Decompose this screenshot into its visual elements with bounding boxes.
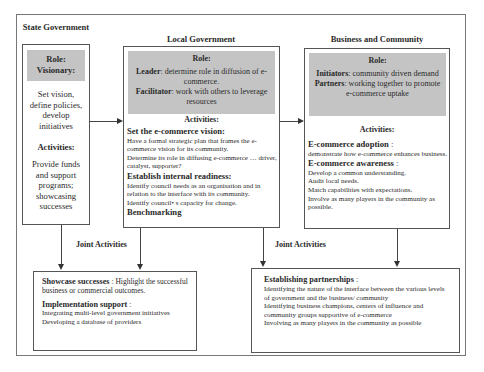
business-role-heading: Role: — [312, 56, 443, 66]
arrow-local-to-right-joint — [263, 228, 264, 262]
business-role-band: Role: Initiators: community driven deman… — [309, 53, 446, 116]
business-community-title: Business and Community — [304, 34, 450, 45]
business-section-heading: E-commerce awareness : — [308, 158, 448, 169]
arrow-state-to-local — [90, 121, 118, 122]
local-government-box: Role: Leader: determine role in diffusio… — [123, 46, 280, 228]
arrow-local-to-business — [280, 121, 299, 122]
local-section-line: Have a formal strategic plan that frames… — [127, 137, 277, 154]
establishing-partnerships-heading: Establishing partnerships : — [264, 275, 447, 285]
implementation-line: Developing a database of providers — [42, 318, 188, 327]
business-community-box: Role: Initiators: community driven deman… — [304, 48, 450, 229]
local-section-heading: Benchmarking — [127, 207, 277, 218]
local-section-heading: Set the e-commerce vision: — [127, 126, 277, 137]
joint-activities-label-right: Joint Activities — [275, 240, 355, 250]
local-government-title: Local Government — [123, 34, 279, 45]
arrow-head-down-icon — [394, 261, 400, 267]
state-role-band: Role: Visionary: — [27, 50, 85, 81]
business-section-heading: E-commerce adoption : — [308, 139, 448, 150]
arrow-state-to-joint — [61, 225, 62, 265]
business-section-line: Audit local needs. — [308, 177, 448, 186]
state-role-text: Set vision, define policies, develop ini… — [27, 89, 85, 131]
state-role-heading: Role: — [27, 54, 85, 65]
arrow-head-down-icon — [137, 264, 143, 270]
business-section-line: Match capabilities with expectations. — [308, 186, 448, 195]
showcase-successes: Showcase successes : Highlight the succe… — [42, 277, 188, 295]
state-activities-text: Provide funds and support programs; show… — [27, 159, 85, 212]
arrow-head-down-icon — [260, 261, 266, 267]
business-section-line: Involve as many players in the community… — [308, 195, 448, 212]
business-role-initiators: Initiators: community driven demand — [312, 69, 443, 79]
local-role-facilitator: Facilitator: work with others to leverag… — [132, 87, 271, 107]
arrow-head-down-icon — [58, 264, 64, 270]
implementation-line: Integrating multi-level government initi… — [42, 309, 188, 318]
local-role-heading: Role: — [132, 54, 271, 64]
arrow-business-to-joint — [397, 229, 398, 262]
implementation-support-heading: Implementation support : — [42, 300, 188, 309]
local-role-leader: Leader: determine role in diffusion of e… — [132, 67, 271, 87]
partnership-line: Identifying the nature of the interface … — [264, 285, 447, 302]
local-activities-list: Set the e-commerce vision: Have a formal… — [127, 126, 277, 218]
state-role-name: Visionary: — [27, 65, 85, 76]
business-role-partners: Partners: working together to promote e-… — [312, 79, 443, 99]
local-section-line: Determine its role in diffusing e-commer… — [127, 154, 277, 171]
joint-box-right: Establishing partnerships : Identifying … — [251, 268, 460, 353]
joint-activities-label-left: Joint Activities — [76, 240, 146, 250]
local-section-heading: Establish internal readiness: — [127, 171, 277, 182]
business-activities-heading: Activities: — [305, 125, 449, 135]
business-section-line: Develop a common understanding. — [308, 169, 448, 178]
partnership-line: Identifying business champions, centers … — [264, 302, 447, 319]
state-activities-heading: Activities: — [25, 142, 87, 153]
partnership-line: Involving as many players in the communi… — [264, 319, 447, 328]
business-section-line: demonstrate how e-commerce enhances busi… — [308, 150, 448, 159]
local-role-band: Role: Leader: determine role in diffusio… — [128, 51, 275, 114]
state-government-title: State Government — [22, 22, 90, 33]
local-section-line: Identify council• s capacity for change. — [127, 199, 277, 208]
business-activities-list: E-commerce adoption : demonstrate how e-… — [308, 139, 448, 212]
local-activities-heading: Activities: — [124, 115, 279, 125]
local-section-line: Identify council needs as an organisatio… — [127, 182, 277, 199]
state-government-box: Role: Visionary: Set vision, define poli… — [22, 44, 90, 225]
joint-box-left: Showcase successes : Highlight the succe… — [33, 271, 197, 351]
